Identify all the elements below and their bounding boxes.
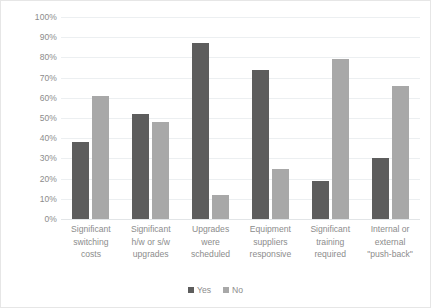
- category-label-line: external: [362, 236, 418, 249]
- category-label-line: suppliers: [242, 236, 298, 249]
- category-label-line: required: [302, 248, 358, 261]
- y-axis-tick-label: 40%: [40, 133, 57, 143]
- category-label: Significanth/w or s/wupgrades: [121, 223, 181, 261]
- bar-yes[interactable]: [312, 181, 329, 219]
- category-label-line: were: [183, 236, 239, 249]
- category-label-line: "push-back": [362, 248, 418, 261]
- legend-label: Yes: [197, 285, 211, 295]
- category-label-line: scheduled: [183, 248, 239, 261]
- y-axis-tick-label: 20%: [40, 174, 57, 184]
- bar-yes[interactable]: [72, 142, 89, 219]
- y-axis-tick-label: 80%: [40, 52, 57, 62]
- gridline: [61, 219, 420, 220]
- bar-yes[interactable]: [192, 43, 209, 219]
- bar-group: [121, 17, 181, 219]
- y-axis: 100%90%80%70%60%50%40%30%20%10%0%: [19, 17, 57, 219]
- bar-no[interactable]: [92, 96, 109, 219]
- category-label-line: switching: [63, 236, 119, 249]
- category-label: Upgradeswerescheduled: [181, 223, 241, 261]
- bar-no[interactable]: [272, 169, 289, 220]
- category-label-line: training: [302, 236, 358, 249]
- category-label: Significantswitchingcosts: [61, 223, 121, 261]
- bar-no[interactable]: [212, 195, 229, 219]
- category-label-line: Internal or: [362, 223, 418, 236]
- y-axis-tick-label: 50%: [40, 113, 57, 123]
- category-label-line: Equipment: [242, 223, 298, 236]
- category-label-line: Significant: [302, 223, 358, 236]
- bar-group: [300, 17, 360, 219]
- y-axis-tick-label: 30%: [40, 153, 57, 163]
- category-label-line: Upgrades: [183, 223, 239, 236]
- y-axis-tick-label: 60%: [40, 93, 57, 103]
- category-label-line: upgrades: [123, 248, 179, 261]
- category-label-line: responsive: [242, 248, 298, 261]
- category-label-line: costs: [63, 248, 119, 261]
- bar-group: [61, 17, 121, 219]
- legend-swatch-icon: [188, 287, 194, 293]
- bar-no[interactable]: [332, 59, 349, 219]
- legend-label: No: [232, 285, 243, 295]
- y-axis-tick-label: 10%: [40, 194, 57, 204]
- x-axis-category-labels: SignificantswitchingcostsSignificanth/w …: [61, 223, 420, 261]
- y-axis-tick-label: 90%: [40, 32, 57, 42]
- bar-yes[interactable]: [372, 158, 389, 219]
- y-axis-tick-label: 70%: [40, 73, 57, 83]
- y-axis-tick-label: 0%: [45, 214, 58, 224]
- bar-no[interactable]: [152, 122, 169, 219]
- bar-chart: 100%90%80%70%60%50%40%30%20%10%0% Signif…: [0, 0, 431, 308]
- chart-legend: YesNo: [1, 285, 430, 295]
- category-label: Internal orexternal"push-back": [360, 223, 420, 261]
- legend-swatch-icon: [223, 287, 229, 293]
- category-label: Significanttrainingrequired: [300, 223, 360, 261]
- bar-yes[interactable]: [132, 114, 149, 219]
- bar-group: [240, 17, 300, 219]
- category-label-line: Significant: [63, 223, 119, 236]
- legend-item[interactable]: Yes: [188, 285, 211, 295]
- bar-group: [181, 17, 241, 219]
- category-label: Equipmentsuppliersresponsive: [240, 223, 300, 261]
- bar-no[interactable]: [392, 86, 409, 219]
- bar-yes[interactable]: [252, 70, 269, 219]
- y-axis-tick-label: 100%: [35, 12, 57, 22]
- bar-group: [360, 17, 420, 219]
- legend-item[interactable]: No: [223, 285, 243, 295]
- category-label-line: h/w or s/w: [123, 236, 179, 249]
- category-label-line: Significant: [123, 223, 179, 236]
- bars-container: [61, 17, 420, 219]
- plot-area: 100%90%80%70%60%50%40%30%20%10%0% Signif…: [1, 1, 431, 308]
